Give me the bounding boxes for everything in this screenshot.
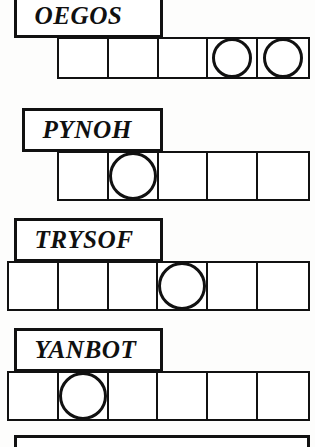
scrambled-word: OEGOS [17, 3, 122, 29]
answer-cell[interactable] [208, 263, 258, 309]
answer-cell[interactable] [109, 39, 159, 77]
scrambled-word: YANBOT [17, 337, 136, 363]
answer-cell[interactable] [258, 263, 308, 309]
next-word-label-box-partial [14, 435, 310, 447]
answer-grid [7, 261, 310, 311]
highlight-circle-icon [109, 152, 157, 200]
answer-cell[interactable] [208, 39, 258, 77]
scrambled-word: TRYSOF [17, 227, 134, 253]
answer-cell[interactable] [59, 39, 109, 77]
answer-cell[interactable] [59, 373, 109, 419]
highlight-circle-icon [212, 38, 252, 78]
highlight-circle-icon [158, 262, 206, 310]
word-label-box: TRYSOF [14, 218, 163, 262]
answer-cell[interactable] [159, 153, 209, 199]
answer-cell[interactable] [59, 153, 109, 199]
answer-cell[interactable] [159, 39, 209, 77]
answer-cell[interactable] [109, 373, 159, 419]
answer-cell[interactable] [158, 263, 208, 309]
word-label-box: PYNOH [22, 108, 163, 152]
word-label-box: OEGOS [14, 0, 163, 38]
word-label-box: YANBOT [14, 328, 163, 372]
answer-grid [57, 151, 310, 201]
worksheet-page: OEGOSPYNOHTRYSOFYANBOT [0, 0, 315, 447]
answer-grid [7, 371, 310, 421]
answer-cell[interactable] [258, 373, 308, 419]
highlight-circle-icon [59, 372, 107, 420]
highlight-circle-icon [263, 38, 303, 78]
answer-cell[interactable] [208, 373, 258, 419]
answer-cell[interactable] [9, 263, 59, 309]
answer-cell[interactable] [109, 263, 159, 309]
answer-cell[interactable] [158, 373, 208, 419]
answer-cell[interactable] [109, 153, 159, 199]
answer-cell[interactable] [258, 153, 308, 199]
answer-cell[interactable] [258, 39, 308, 77]
answer-cell[interactable] [9, 373, 59, 419]
scrambled-word: PYNOH [25, 117, 132, 143]
answer-cell[interactable] [208, 153, 258, 199]
answer-grid [57, 37, 310, 79]
answer-cell[interactable] [59, 263, 109, 309]
